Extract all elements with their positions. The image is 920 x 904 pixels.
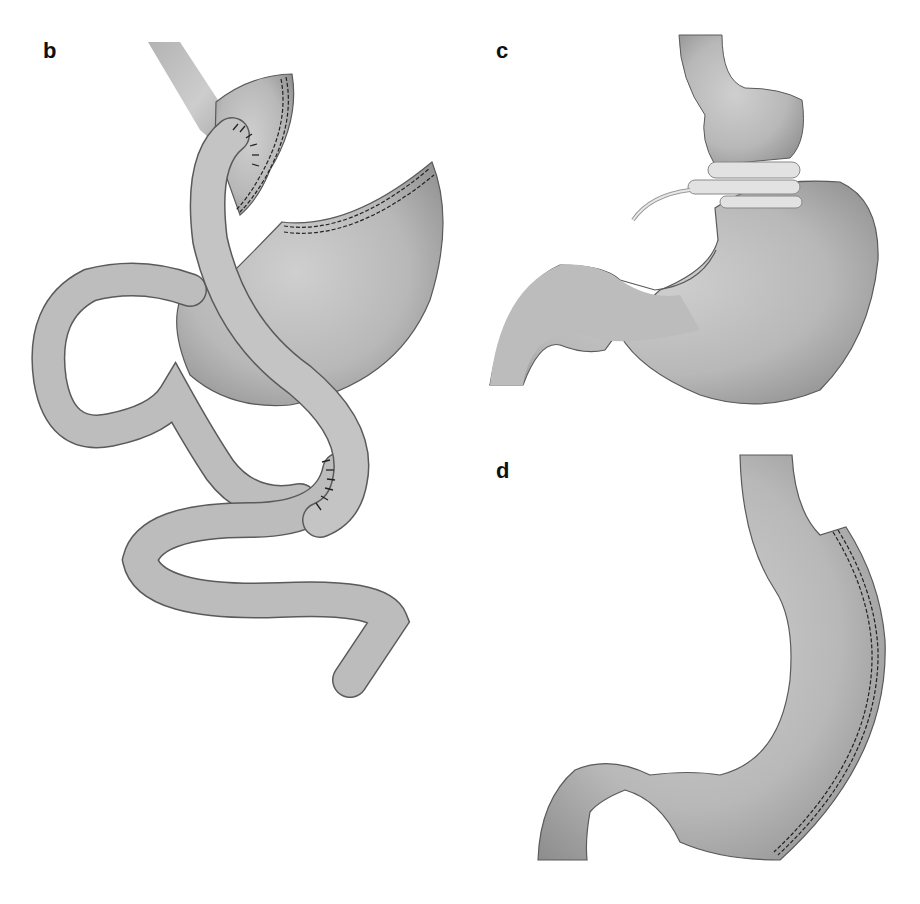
panel-d-sleeve-gastrectomy [538, 455, 885, 860]
panel-b-gastric-bypass [48, 42, 443, 680]
illustration-canvas [0, 0, 920, 904]
band-connecting-tube [633, 190, 690, 220]
panel-label-d: d [496, 458, 509, 484]
panel-label-c: c [496, 38, 508, 64]
adjustable-band [688, 162, 802, 208]
sleeve-stomach [538, 455, 885, 860]
panel-label-b: b [43, 38, 56, 64]
esophagus [679, 35, 804, 165]
panel-c-gastric-band [490, 35, 878, 404]
